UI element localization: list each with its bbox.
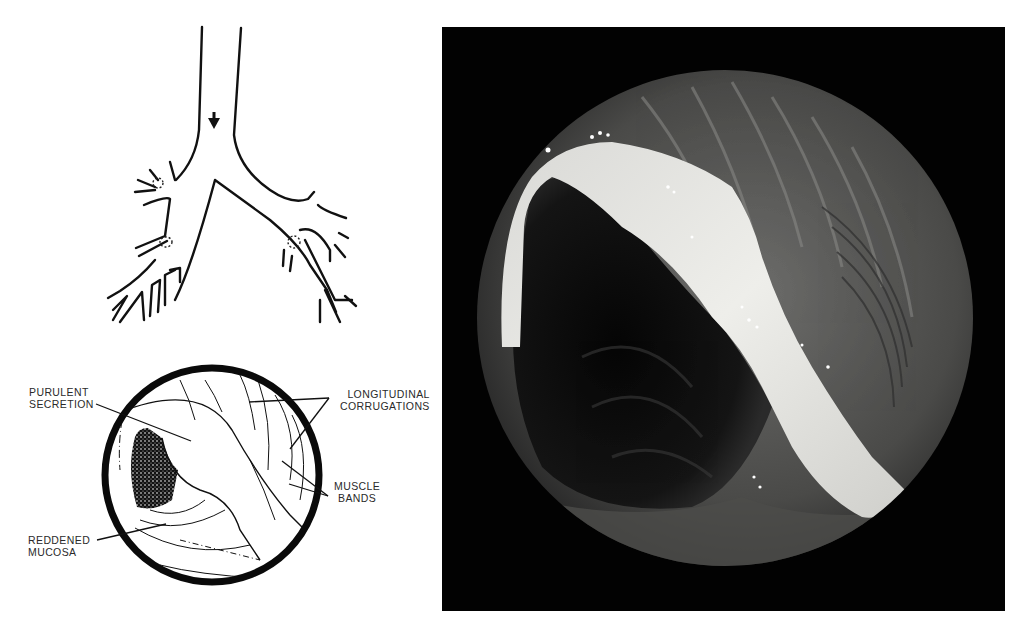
- airway-tree-diagram: [0, 0, 440, 340]
- carina-inner: [175, 180, 336, 312]
- leader-muscle-bands-b: [289, 484, 328, 496]
- photo-rendering: [442, 27, 1005, 611]
- endoscopic-photograph: [442, 27, 1005, 611]
- trachea-left-wall: [176, 27, 202, 180]
- label-purulent-secretion: PURULENT SECRETION: [29, 386, 94, 410]
- airway-tree-drawing: [0, 0, 440, 340]
- leader-reddened-mucosa: [97, 524, 166, 540]
- label-muscle-bands: MUSCLE BANDS: [334, 480, 380, 504]
- arrow-down-icon: [208, 112, 220, 129]
- trachea-right-wall: [234, 28, 314, 201]
- endoscopic-view-diagram: PURULENT SECRETION LONGITUDINAL CORRUGAT…: [0, 340, 440, 625]
- label-longitudinal-corrugations: LONGITUDINAL CORRUGATIONS: [340, 388, 430, 412]
- label-reddened-mucosa: REDDENED MUCOSA: [28, 534, 90, 558]
